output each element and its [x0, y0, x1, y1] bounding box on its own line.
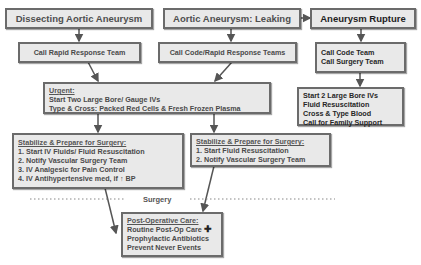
call-rapid-response-box: Call Rapid Response Team — [18, 42, 141, 63]
plus-icon: ✚ — [204, 224, 212, 234]
stabilize-left-line-2: 2. Notify Vascular Surgery Team — [18, 156, 178, 165]
aneurysm-rupture-box: Aneurysm Rupture — [310, 8, 416, 29]
stabilize-mid-header: Stabilize & Prepare for Surgery: — [196, 137, 325, 146]
rupture-action-2: Fluid Resuscitation — [303, 100, 398, 109]
rupture-actions-box: Start 2 Large Bore IVs Fluid Resuscitati… — [297, 87, 404, 126]
dissecting-title: Dissecting Aortic Aneurysm — [16, 13, 143, 25]
stabilize-mid-line-1: 1. Start Fluid Resuscitation — [196, 146, 325, 155]
stabilize-mid-box: Stabilize & Prepare for Surgery: 1. Star… — [190, 133, 331, 167]
postop-line-3: Prevent Never Events — [127, 243, 217, 252]
rupture-title: Aneurysm Rupture — [320, 13, 406, 25]
rupture-action-3: Cross & Type Blood — [303, 109, 398, 118]
stabilize-left-header: Stabilize & Prepare for Surgery: — [18, 138, 178, 147]
postop-line-1: Routine Post-Op Care ✚ — [127, 225, 217, 234]
postop-line-2: Prophylactic Antibiotics — [127, 234, 217, 243]
rupture-action-4: Call for Family Support — [303, 118, 398, 127]
urgent-header: Urgent: — [49, 86, 265, 95]
urgent-box: Urgent: Start Two Large Bore/ Gauge IVs … — [43, 82, 271, 114]
rupture-response-2: Call Surgery Team — [321, 57, 400, 66]
stabilize-left-line-1: 1. Start IV Fluids/ Fluid Resuscitation — [18, 147, 178, 156]
urgent-line-2: Type & Cross: Packed Red Cells & Fresh F… — [49, 104, 265, 113]
postop-line-1-text: Routine Post-Op Care — [127, 225, 202, 234]
call-code-rapid-response-box: Call Code/Rapid Response Teams — [158, 42, 297, 63]
rupture-response-1: Call Code Team — [321, 48, 400, 57]
rupture-action-1: Start 2 Large Bore IVs — [303, 91, 398, 100]
stabilize-mid-line-2: 2. Notify Vascular Surgery Team — [196, 155, 325, 164]
stabilize-left-box: Stabilize & Prepare for Surgery: 1. Star… — [12, 133, 184, 189]
postop-box: Post-Operative Care: Routine Post-Op Car… — [121, 212, 223, 257]
leaking-title: Aortic Aneurysm: Leaking — [173, 13, 291, 25]
stabilize-left-line-4: 4. IV Antihypertensive med, if ↑ BP — [18, 174, 178, 183]
leaking-response: Call Code/Rapid Response Teams — [170, 48, 286, 57]
dissecting-aortic-aneurysm-box: Dissecting Aortic Aneurysm — [5, 8, 153, 29]
call-code-surgery-box: Call Code Team Call Surgery Team — [315, 42, 406, 73]
aortic-aneurysm-leaking-box: Aortic Aneurysm: Leaking — [163, 8, 301, 29]
dissecting-response: Call Rapid Response Team — [34, 48, 126, 57]
surgery-label: Surgery — [143, 195, 171, 204]
stabilize-left-line-3: 3. IV Analgesic for Pain Control — [18, 165, 178, 174]
urgent-line-1: Start Two Large Bore/ Gauge IVs — [49, 95, 265, 104]
